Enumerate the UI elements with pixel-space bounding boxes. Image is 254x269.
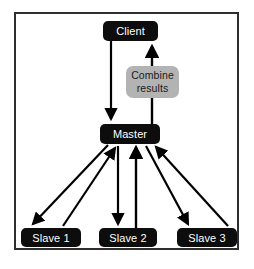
node-combine-label-line2: results (137, 82, 169, 95)
edge-slave1-to-master (63, 148, 115, 226)
node-client-label: Client (116, 25, 145, 37)
node-slave-2-label: Slave 2 (109, 232, 146, 244)
node-master[interactable]: Master (100, 124, 160, 144)
node-slave-3-label: Slave 3 (188, 232, 225, 244)
node-combine-results[interactable]: Combine results (126, 66, 179, 98)
node-slave-3[interactable]: Slave 3 (177, 228, 237, 247)
node-client[interactable]: Client (103, 21, 158, 41)
edge-master-to-slave1 (33, 145, 108, 224)
diagram-canvas: Client Combine results Master Slave 1 Sl… (0, 0, 254, 269)
node-slave-1-label: Slave 1 (32, 232, 69, 244)
node-combine-label-line1: Combine (131, 69, 174, 82)
node-slave-1[interactable]: Slave 1 (21, 228, 81, 247)
node-slave-2[interactable]: Slave 2 (99, 228, 157, 247)
node-master-label: Master (113, 128, 147, 140)
